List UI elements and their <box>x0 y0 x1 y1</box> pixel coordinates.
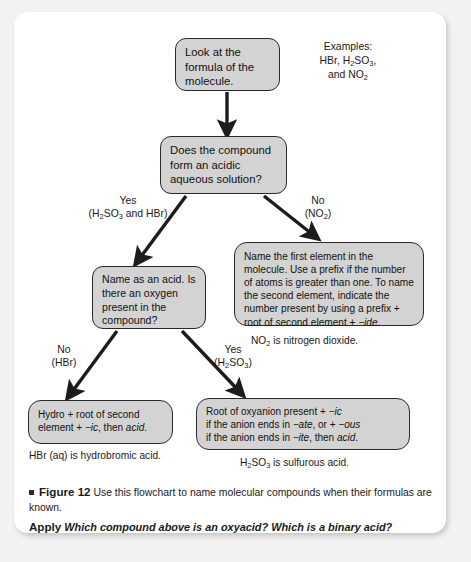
note-examples-line2: HBr, H2SO3, <box>293 54 403 69</box>
molecular-period: . <box>378 317 381 328</box>
figure-page: Look at the formula of the molecule. Doe… <box>0 0 471 562</box>
branch-label-no-oxygen-word: No <box>33 343 95 356</box>
ex-a: HBr, H <box>320 55 351 66</box>
molecular-line-5: number present by using a prefix + <box>244 303 400 314</box>
ex-e: , <box>374 55 377 66</box>
oxyacid-or: , or + <box>312 419 338 430</box>
branch-label-yes-acidic-word: Yes <box>73 194 183 207</box>
oxyacid-line-2: if the anion ends in <box>206 419 293 430</box>
yes1-c: SO <box>104 208 119 219</box>
node-acidic-question: Does the compound form an acidic aqueous… <box>160 136 287 194</box>
node-name-as-acid-text: Name as an acid. Is there an oxygen pres… <box>102 273 196 326</box>
no2note-a: NO <box>251 335 266 346</box>
note-h2so3-sulfurous-acid: H2SO3 is sulfurous acid. <box>240 456 420 470</box>
node-acidic-question-text: Does the compound form an acidic aqueous… <box>170 144 271 185</box>
oxyacid-word-acid: acid <box>337 432 355 443</box>
branch-label-yes-oxygen-detail: (H2SO3) <box>193 356 273 370</box>
node-oxyacid-rule: Root of oxyanion present + −ic if the an… <box>196 398 410 450</box>
figure-bullet-icon <box>29 490 34 495</box>
note-examples-line3: and NO2 <box>293 68 403 83</box>
oxyacid-suffix-ite: −ite <box>293 432 309 443</box>
yes2-e: ) <box>248 357 251 368</box>
note-examples-title: Examples: <box>293 40 403 54</box>
branch-label-yes-acidic: Yes (H2SO3 and HBr) <box>73 194 183 222</box>
binary-line-1: Hydro + root of second <box>38 409 139 420</box>
yes2-a: (H <box>214 357 225 368</box>
apply-prompt: Apply Which compound above is an oxyacid… <box>29 520 439 533</box>
branch-label-no-acidic: No (NO2) <box>283 194 353 222</box>
branch-label-no-acidic-detail: (NO2) <box>283 207 353 221</box>
node-binary-acid-rule: Hydro + root of second element + −ic, th… <box>28 400 173 444</box>
no1-a: (NO <box>305 208 324 219</box>
branch-label-yes-acidic-detail: (H2SO3 and HBr) <box>73 207 183 221</box>
molecular-line-3: of atoms is greater than one. To <box>244 277 386 288</box>
binary-suffix-ic: −ic <box>85 422 98 433</box>
molecular-suffix-ide: −ide <box>358 317 377 328</box>
yes2-c: SO <box>229 357 244 368</box>
h2so3-e: is sulfurous acid. <box>270 457 349 468</box>
figure-caption: Figure 12 Use this flowchart to name mol… <box>29 484 439 533</box>
node-look-at-formula-text: Look at the formula of the molecule. <box>185 46 254 87</box>
figure-caption-line: Figure 12 Use this flowchart to name mol… <box>29 484 439 516</box>
apply-heading: Apply <box>29 520 61 533</box>
h2so3-c: SO <box>251 457 266 468</box>
oxyacid-suffix-ous: −ous <box>338 419 360 430</box>
branch-label-no-oxygen: No (HBr) <box>33 343 95 370</box>
oxyacid-suffix-ate: −ate <box>293 419 313 430</box>
branch-label-no-oxygen-detail: (HBr) <box>33 356 95 369</box>
ex3-a: and NO <box>328 69 364 80</box>
binary-period: . <box>144 422 147 433</box>
branch-label-no-acidic-word: No <box>283 194 353 207</box>
no2note-c: is nitrogen dioxide. <box>270 335 358 346</box>
note-examples: Examples: HBr, H2SO3, and NO2 <box>293 40 403 83</box>
molecular-line-1: Name the first element in the <box>244 251 373 262</box>
note-no2-nitrogen-dioxide: NO2 is nitrogen dioxide. <box>251 334 421 348</box>
ex3-sub: 2 <box>364 73 368 82</box>
note-hbr-hydrobromic-acid: HBr (aq) is hydrobromic acid. <box>29 449 219 462</box>
yes1-a: (H <box>89 208 100 219</box>
node-name-as-acid: Name as an acid. Is there an oxygen pres… <box>92 266 206 329</box>
oxyacid-then: , then <box>309 432 337 443</box>
node-molecular-naming: Name the first element in the molecule. … <box>234 242 424 326</box>
molecular-line-6: root of second element + <box>244 317 358 328</box>
figure-number-label: Figure 12 <box>39 485 91 498</box>
oxyacid-period: . <box>355 432 358 443</box>
oxyacid-suffix-ic: −ic <box>329 406 342 417</box>
yes1-e: and HBr) <box>123 208 167 219</box>
oxyacid-line-1: Root of oxyanion present + <box>206 406 329 417</box>
oxyacid-line-3: if the anion ends in <box>206 432 293 443</box>
binary-line-2: element + <box>38 422 85 433</box>
binary-word-acid: acid <box>126 422 144 433</box>
molecular-line-2: molecule. Use a prefix if the number <box>244 264 406 275</box>
apply-question-text: Which compound above is an oxyacid? Whic… <box>64 521 392 533</box>
node-look-at-formula: Look at the formula of the molecule. <box>175 38 280 91</box>
ex-c: SO <box>354 55 369 66</box>
binary-then: , then <box>98 422 126 433</box>
no1-c: ) <box>328 208 331 219</box>
